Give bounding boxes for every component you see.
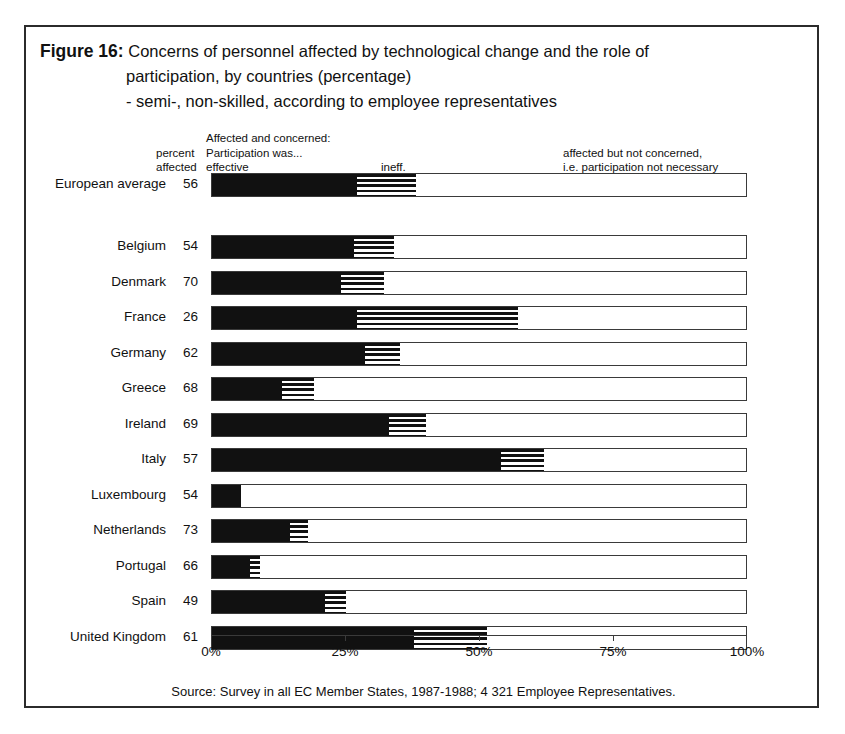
bar-segment-ineffective — [357, 174, 416, 196]
bar-row-country-label: Denmark — [26, 274, 166, 289]
bar-segment-effective — [212, 591, 325, 613]
bar-rows: European average56Belgium54Denmark70Fran… — [26, 27, 821, 710]
bar-row-percent-affected: 61 — [172, 629, 198, 644]
bar-track — [211, 413, 747, 437]
bar-segment-effective — [212, 449, 501, 471]
axis-tick-label: 25% — [331, 644, 358, 659]
bar-segment-ineffective — [341, 272, 384, 294]
axis-tick — [345, 635, 346, 641]
bar-track — [211, 173, 747, 197]
bar-row-country-label: Ireland — [26, 416, 166, 431]
bar-row: Greece68 — [26, 377, 821, 401]
bar-row-percent-affected: 70 — [172, 274, 198, 289]
bar-row-country-label: Spain — [26, 593, 166, 608]
axis-tick-label: 0% — [201, 644, 221, 659]
bar-segment-effective — [212, 236, 354, 258]
bar-segment-ineffective — [290, 520, 309, 542]
bar-row: Denmark70 — [26, 271, 821, 295]
bar-row-country-label: France — [26, 309, 166, 324]
bar-segment-ineffective — [282, 378, 314, 400]
figure-frame: Figure 16: Concerns of personnel affecte… — [24, 25, 819, 708]
bar-segment-effective — [212, 378, 282, 400]
bar-row: Italy57 — [26, 448, 821, 472]
bar-track — [211, 590, 747, 614]
bar-segment-effective — [212, 272, 341, 294]
source-note: Source: Survey in all EC Member States, … — [26, 684, 821, 699]
axis-tick — [746, 635, 747, 641]
bar-row-percent-affected: 73 — [172, 522, 198, 537]
bar-row: Luxembourg54 — [26, 484, 821, 508]
axis-tick — [613, 635, 614, 641]
bar-segment-effective — [212, 414, 389, 436]
bar-row: Belgium54 — [26, 235, 821, 259]
bar-track — [211, 377, 747, 401]
bar-row-percent-affected: 66 — [172, 558, 198, 573]
bar-row-country-label: Germany — [26, 345, 166, 360]
bar-row-country-label: Netherlands — [26, 522, 166, 537]
bar-row: Spain49 — [26, 590, 821, 614]
bar-segment-effective — [212, 174, 357, 196]
bar-row-percent-affected: 54 — [172, 238, 198, 253]
bar-row: Portugal66 — [26, 555, 821, 579]
bar-segment-ineffective — [365, 343, 400, 365]
bar-row-percent-affected: 49 — [172, 593, 198, 608]
bar-track — [211, 342, 747, 366]
bar-row-country-label: Belgium — [26, 238, 166, 253]
bar-segment-ineffective — [325, 591, 346, 613]
bar-row: Germany62 — [26, 342, 821, 366]
bar-row: Ireland69 — [26, 413, 821, 437]
bar-track — [211, 484, 747, 508]
bar-segment-effective — [212, 520, 290, 542]
bar-row-percent-affected: 62 — [172, 345, 198, 360]
axis-tick-label: 100% — [730, 644, 765, 659]
bar-row-percent-affected: 56 — [172, 176, 198, 191]
bar-track — [211, 555, 747, 579]
bar-row-country-label: United Kingdom — [26, 629, 166, 644]
bar-row-country-label: Luxembourg — [26, 487, 166, 502]
axis-tick-label: 75% — [599, 644, 626, 659]
bar-row: European average56 — [26, 173, 821, 197]
bar-track — [211, 271, 747, 295]
axis-tick-label: 50% — [465, 644, 492, 659]
bar-row-country-label: European average — [26, 176, 166, 191]
bar-row-country-label: Italy — [26, 451, 166, 466]
bar-segment-effective — [212, 307, 357, 329]
bar-segment-ineffective — [389, 414, 427, 436]
bar-segment-ineffective — [250, 556, 261, 578]
axis-tick — [479, 635, 480, 641]
bar-row-percent-affected: 54 — [172, 487, 198, 502]
bar-row-percent-affected: 69 — [172, 416, 198, 431]
bar-row-percent-affected: 26 — [172, 309, 198, 324]
bar-segment-ineffective — [357, 307, 518, 329]
bar-segment-ineffective — [501, 449, 544, 471]
x-axis: 0%25%50%75%100% — [211, 635, 747, 675]
bar-track — [211, 448, 747, 472]
bar-row-country-label: Portugal — [26, 558, 166, 573]
bar-row-percent-affected: 57 — [172, 451, 198, 466]
bar-row-percent-affected: 68 — [172, 380, 198, 395]
axis-tick — [211, 635, 212, 641]
bar-track — [211, 306, 747, 330]
bar-row: France26 — [26, 306, 821, 330]
bar-track — [211, 519, 747, 543]
bar-row: Netherlands73 — [26, 519, 821, 543]
bar-segment-effective — [212, 556, 250, 578]
bar-row-country-label: Greece — [26, 380, 166, 395]
bar-segment-effective — [212, 485, 241, 507]
bar-track — [211, 235, 747, 259]
bar-segment-effective — [212, 343, 365, 365]
bar-segment-ineffective — [354, 236, 394, 258]
